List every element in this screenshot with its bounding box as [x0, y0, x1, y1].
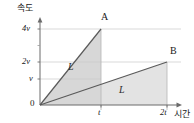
- velocity-time-graph-figure: 속도 시간 4v 2v v 0 t 2t A B L L: [0, 0, 194, 123]
- y-axis-arrowhead: [38, 17, 43, 23]
- x-axis-arrowhead: [177, 103, 183, 108]
- plot-canvas: [0, 0, 194, 123]
